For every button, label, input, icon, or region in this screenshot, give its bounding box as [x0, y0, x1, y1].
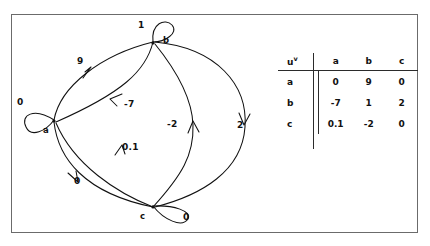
edge-weight-b-c: 2	[237, 120, 244, 130]
matrix-grid: uv a b c a 0 9 0 b -7 1	[278, 51, 418, 134]
matrix-cell-a-c: 0	[385, 71, 418, 93]
edge-a-c	[54, 122, 153, 207]
edge-weight-a-a: 0	[17, 97, 24, 107]
edge-a-a-selfloop	[25, 113, 54, 132]
matrix-corner-col-var: v	[293, 55, 297, 63]
edge-c-a	[56, 123, 153, 207]
node-label-b: b	[163, 35, 169, 45]
edge-weight-c-a: 0.1	[122, 142, 139, 152]
matrix-cell-c-c: 0	[385, 113, 418, 134]
matrix-col-head-a: a	[319, 51, 353, 71]
arrowhead-b-a	[110, 94, 122, 106]
matrix-col-head-c: c	[385, 51, 418, 71]
edge-a-b	[54, 42, 153, 120]
node-dot-b	[151, 41, 154, 44]
matrix-cell-a-a: 0	[319, 71, 353, 93]
edge-weight-a-c: 0	[74, 176, 81, 186]
node-label-a: a	[43, 125, 49, 135]
edge-b-a	[56, 42, 153, 122]
matrix-col-head-b: b	[352, 51, 385, 71]
matrix-row: a 0 9 0	[278, 71, 418, 93]
edge-weight-c-b: -2	[167, 119, 178, 129]
edge-weight-b-a: -7	[124, 99, 135, 109]
matrix-cell-b-b: 1	[352, 92, 385, 113]
matrix-header-row: uv a b c	[278, 51, 418, 71]
matrix-cell-c-a: 0.1	[319, 113, 353, 134]
matrix-row: c 0.1 -2 0	[278, 113, 418, 134]
figure-frame: a b c 0 1 0 9 -7 2 -2 0 0.1 uv a b c	[11, 14, 418, 233]
adjacency-matrix: uv a b c a 0 9 0 b -7 1	[278, 51, 418, 151]
edge-weight-b-b: 1	[138, 20, 145, 30]
matrix-cell-c-b: -2	[352, 113, 385, 134]
node-label-c: c	[140, 211, 145, 221]
edge-weight-a-b: 9	[77, 56, 84, 66]
node-dot-c	[151, 205, 154, 208]
node-dot-a	[52, 119, 55, 122]
matrix-cell-a-b: 9	[352, 71, 385, 93]
matrix-cell-b-a: -7	[319, 92, 353, 113]
matrix-vertical-divider	[313, 53, 314, 149]
arrowhead-a-b	[83, 67, 91, 78]
matrix-row: b -7 1 2	[278, 92, 418, 113]
matrix-cell-b-c: 2	[385, 92, 418, 113]
edge-weight-c-c: 0	[183, 212, 190, 222]
